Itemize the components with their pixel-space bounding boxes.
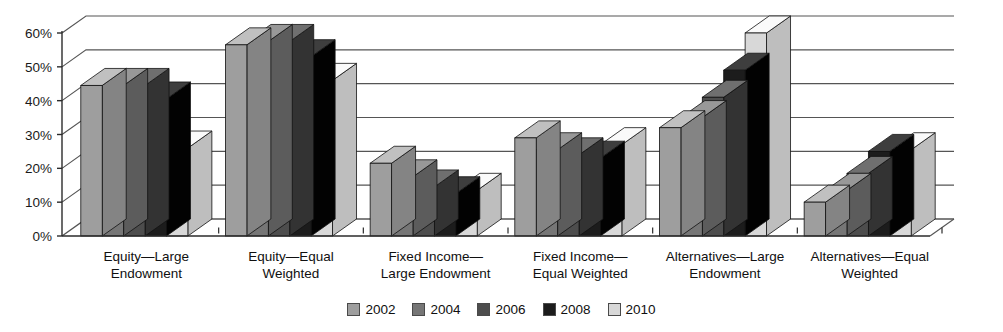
legend-label: 2002 bbox=[365, 302, 395, 317]
x-axis-category-label: Equity—Equal Weighted bbox=[213, 249, 370, 282]
legend-swatch-icon bbox=[608, 303, 621, 316]
x-axis-category-label: Fixed Income— Equal Weighted bbox=[502, 249, 659, 282]
legend-item[interactable]: 2004 bbox=[412, 302, 460, 317]
x-axis-category-label: Equity—Large Endowment bbox=[68, 249, 225, 282]
legend-label: 2004 bbox=[430, 302, 460, 317]
bar-chart: 0%10%20%30%40%50%60% Equity—Large Endowm… bbox=[0, 0, 1003, 332]
legend-item[interactable]: 2006 bbox=[477, 302, 525, 317]
y-axis-tick-label: 40% bbox=[25, 94, 52, 109]
x-axis-category-label: Alternatives—Large Endowment bbox=[647, 249, 804, 282]
chart-legend: 20022004200620082010 bbox=[0, 302, 1003, 317]
y-axis-tick-label: 0% bbox=[32, 229, 52, 244]
legend-swatch-icon bbox=[477, 303, 490, 316]
x-axis-category-label: Fixed Income— Large Endowment bbox=[357, 249, 514, 282]
y-axis-tick-label: 60% bbox=[25, 26, 52, 41]
legend-item[interactable]: 2008 bbox=[543, 302, 591, 317]
legend-label: 2006 bbox=[495, 302, 525, 317]
bar bbox=[81, 68, 126, 236]
legend-swatch-icon bbox=[412, 303, 425, 316]
bar bbox=[225, 28, 270, 236]
x-axis-category-label: Alternatives—Equal Weighted bbox=[791, 249, 948, 282]
legend-swatch-icon bbox=[543, 303, 556, 316]
y-axis-tick-label: 50% bbox=[25, 60, 52, 75]
bar bbox=[370, 146, 415, 236]
y-axis-tick-label: 30% bbox=[25, 128, 52, 143]
bar bbox=[515, 121, 560, 236]
legend-item[interactable]: 2002 bbox=[347, 302, 395, 317]
bars-layer bbox=[81, 16, 935, 236]
y-axis-tick-label: 20% bbox=[25, 161, 52, 176]
legend-item[interactable]: 2010 bbox=[608, 302, 656, 317]
legend-label: 2008 bbox=[561, 302, 591, 317]
y-axis-tick-label: 10% bbox=[25, 195, 52, 210]
legend-swatch-icon bbox=[347, 303, 360, 316]
legend-label: 2010 bbox=[626, 302, 656, 317]
bar bbox=[659, 111, 704, 236]
